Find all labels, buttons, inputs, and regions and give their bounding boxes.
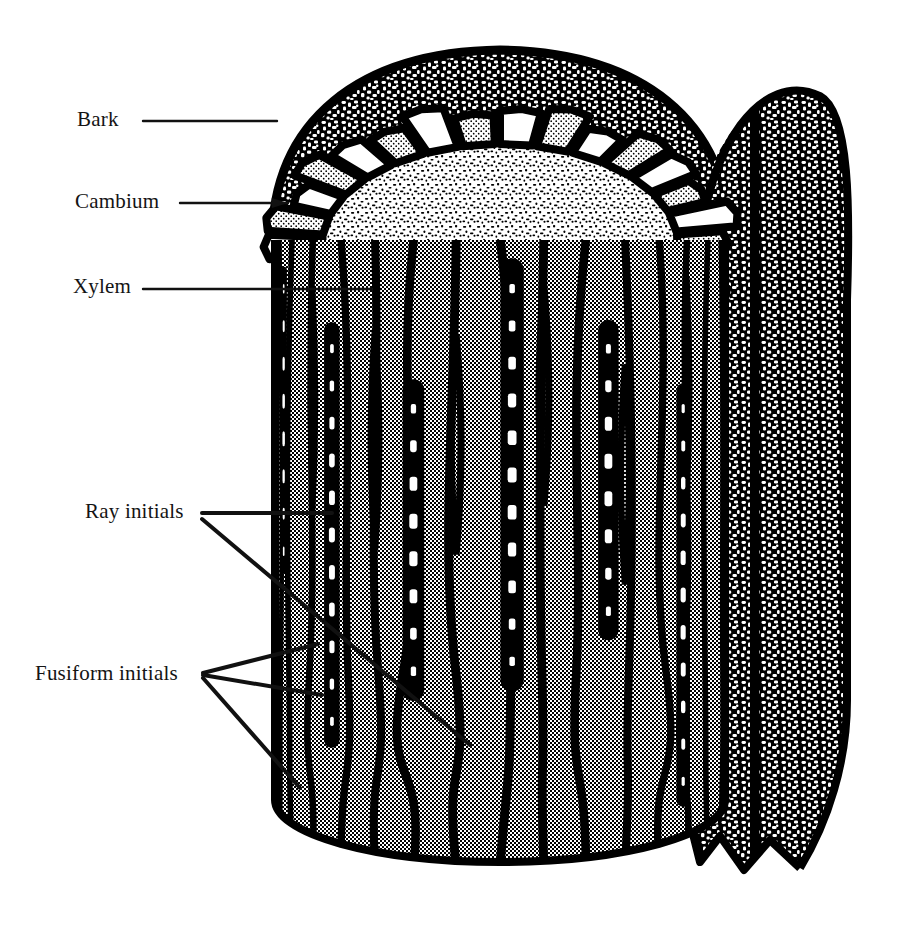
cambium-cell	[454, 114, 495, 146]
ray-initial-cell	[605, 491, 613, 506]
ray-initial-cell	[330, 380, 334, 391]
ray-initial-cell	[508, 394, 516, 408]
ray-initial-cell	[410, 628, 417, 640]
ray-initial-cell	[508, 505, 517, 520]
ray-initial-cell	[509, 657, 515, 666]
ray-initial-cell	[410, 477, 418, 491]
ray-initial-cell	[508, 430, 517, 445]
ray-initial-cell	[605, 380, 611, 392]
ray-initial-cell	[330, 344, 334, 353]
ray-initial-cell	[330, 717, 334, 726]
label-bark: Bark	[77, 109, 119, 130]
label-ray-initials: Ray initials	[85, 501, 184, 522]
ray-initial-cell	[682, 777, 685, 786]
ray-initial-cell	[605, 568, 611, 580]
ray-initial-cell	[681, 739, 685, 750]
ray-initial-cell	[606, 344, 611, 354]
diagram-canvas	[0, 0, 904, 927]
ray-initial-cell	[329, 528, 335, 543]
cambium-cut-face	[260, 230, 740, 890]
ray-initial-cell	[681, 625, 686, 640]
ray-initial-cell	[282, 394, 285, 409]
ray-initial-cell	[283, 320, 285, 332]
ray-initial-cell	[681, 550, 686, 565]
ray-initial-cell	[329, 417, 334, 430]
ray-initial-cell	[508, 357, 516, 370]
ray-initial-cell	[509, 284, 515, 293]
ray-initial-cell	[411, 667, 416, 677]
label-xylem: Xylem	[73, 276, 131, 297]
ray-initial-cell	[329, 490, 335, 505]
ray-initial-cell	[681, 588, 686, 603]
ray-initial-cell	[509, 320, 516, 331]
ray-initial-cell	[681, 440, 685, 451]
ray-initial-cell	[329, 454, 335, 468]
label-fusiform-initials: Fusiform initials	[35, 663, 178, 684]
ray-initial-cell	[283, 469, 285, 483]
ray-initial-cell	[682, 404, 685, 413]
ray-initial-cell	[410, 589, 418, 603]
ray-initial-cell	[329, 603, 335, 617]
ray-initial-cell	[409, 551, 417, 566]
label-cambium: Cambium	[75, 191, 159, 212]
ray-initial-cell	[605, 417, 612, 431]
ray-initial-cell	[605, 454, 613, 469]
ray-initial-cell	[409, 514, 417, 529]
ray-initial-cell	[508, 543, 516, 557]
ray-initial-cell	[605, 529, 612, 543]
ray-initial-cell	[283, 547, 285, 557]
ray-initial-cell	[606, 607, 611, 617]
ray-initial-cell	[410, 440, 417, 452]
ray-initial-cell	[283, 357, 285, 371]
ray-initial-cell	[329, 641, 334, 654]
ray-initial-cell	[681, 663, 686, 677]
ray-initial-cell	[282, 431, 285, 446]
ray-initial-cell	[681, 701, 685, 714]
ray-initial-cell	[681, 514, 686, 528]
ray-initial-cell	[411, 404, 416, 414]
ray-initial-cell	[508, 468, 517, 483]
ray-initial-cell	[329, 565, 335, 580]
ray-initial-cell	[330, 679, 334, 690]
ray-initial-cell	[509, 619, 516, 630]
ray-initial-cell	[681, 477, 685, 490]
cambium-cell	[500, 109, 541, 146]
ray-initial-cell	[508, 581, 516, 594]
